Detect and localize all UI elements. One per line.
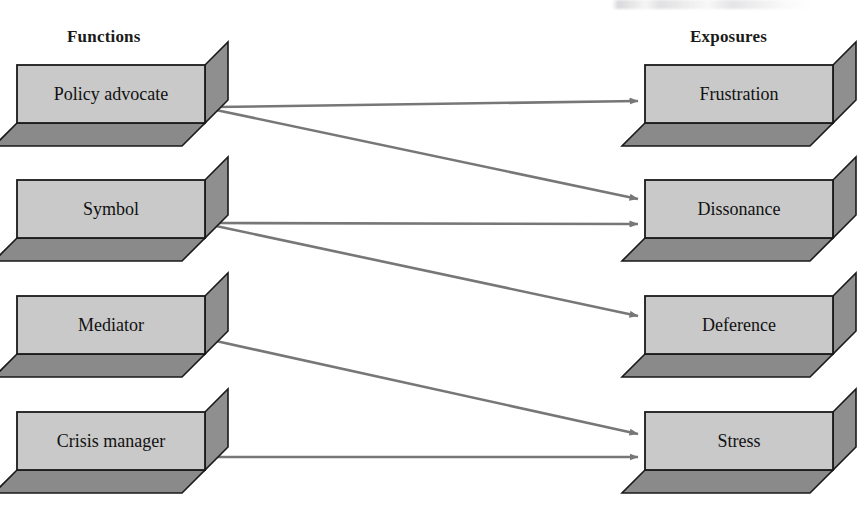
- node-label-deference: Deference: [702, 315, 776, 336]
- edge-policy-dissonance: [216, 110, 638, 199]
- node-box-side-face: [833, 42, 856, 123]
- edge-line: [216, 223, 638, 224]
- edge-symbol-deference: [216, 226, 638, 316]
- node-box-bottom-face: [622, 470, 833, 493]
- node-box-bottom-face: [622, 123, 833, 146]
- node-box-bottom-face: [0, 470, 205, 493]
- node-label-dissonance: Dissonance: [698, 199, 781, 220]
- edge-line: [216, 341, 638, 434]
- node-box-side-face: [833, 389, 856, 470]
- node-label-mediator: Mediator: [78, 315, 144, 336]
- node-label-stress: Stress: [717, 431, 760, 452]
- node-label-policy-advocate: Policy advocate: [54, 84, 168, 105]
- edge-policy-frustration: [216, 101, 638, 107]
- node-label-frustration: Frustration: [700, 84, 779, 105]
- figure-canvas: Functions Exposures Policy advocateSymbo…: [0, 0, 864, 516]
- edge-symbol-dissonance: [216, 223, 638, 224]
- edge-line: [216, 226, 638, 316]
- edge-line: [216, 110, 638, 199]
- node-box-side-face: [205, 157, 228, 238]
- boxes-layer: [0, 42, 856, 493]
- node-box-bottom-face: [0, 238, 205, 261]
- node-box-bottom-face: [622, 238, 833, 261]
- node-box-bottom-face: [0, 123, 205, 146]
- node-label-symbol: Symbol: [83, 199, 139, 220]
- edge-mediator-stress: [216, 341, 638, 434]
- node-box-bottom-face: [0, 354, 205, 377]
- node-box-bottom-face: [622, 354, 833, 377]
- node-box-side-face: [833, 157, 856, 238]
- node-box-side-face: [833, 273, 856, 354]
- node-label-crisis-manager: Crisis manager: [57, 431, 165, 452]
- edge-line: [216, 101, 638, 107]
- edges-layer: [216, 101, 638, 457]
